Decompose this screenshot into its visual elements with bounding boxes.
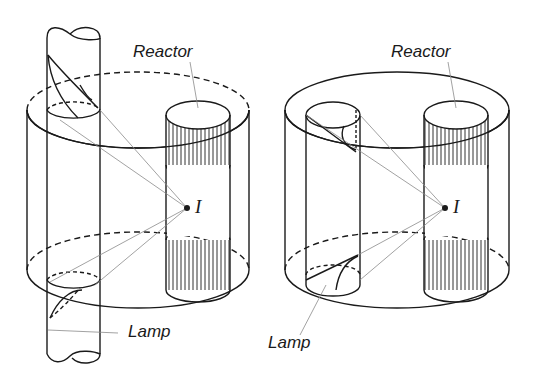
right-reactor-label: Reactor <box>391 42 451 62</box>
right-panel <box>285 62 509 335</box>
right-point-i-marker <box>442 205 448 211</box>
right-lamp-label: Lamp <box>268 333 311 353</box>
left-point-i-marker <box>184 205 190 211</box>
left-point-i-label: I <box>195 196 201 218</box>
right-lamp <box>306 102 360 296</box>
left-lamp-label: Lamp <box>128 322 171 342</box>
right-point-i-label: I <box>453 196 459 218</box>
figure: Reactor I Lamp Reactor I Lamp <box>0 0 536 376</box>
left-lamp-tube <box>47 28 100 363</box>
left-panel <box>27 28 249 363</box>
diagram-svg <box>0 0 536 376</box>
left-reactor-label: Reactor <box>133 42 193 62</box>
